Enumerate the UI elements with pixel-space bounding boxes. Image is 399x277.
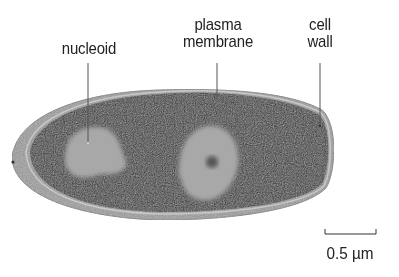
bacterial-cell-micrograph xyxy=(0,0,399,277)
cell-tip-dot xyxy=(11,160,14,163)
scale-bar xyxy=(325,229,376,234)
scale-bar-label: 0.5 µm xyxy=(323,244,377,264)
nucleoid-dark-spot xyxy=(206,156,218,168)
